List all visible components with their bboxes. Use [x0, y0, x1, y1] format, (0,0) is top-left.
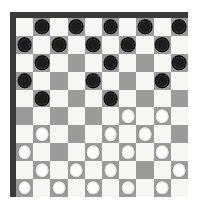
board-square-a7[interactable]: [16, 72, 33, 90]
board-square-c8[interactable]: [50, 54, 67, 72]
board-square-f8[interactable]: [102, 54, 119, 72]
light-checker-piece-icon[interactable]: [155, 145, 170, 160]
light-checker-piece-icon[interactable]: [120, 109, 135, 124]
board-square-i10[interactable]: [154, 18, 171, 36]
board-square-e2[interactable]: [85, 161, 102, 179]
light-checker-piece-icon[interactable]: [17, 180, 32, 195]
board-square-e4[interactable]: [85, 125, 102, 143]
board-square-e8[interactable]: [85, 54, 102, 72]
board-square-h2[interactable]: [136, 161, 153, 179]
board-square-g2[interactable]: [119, 161, 136, 179]
board-square-h10[interactable]: [136, 18, 153, 36]
board-square-a3[interactable]: [16, 143, 33, 161]
light-checker-piece-icon[interactable]: [52, 180, 67, 195]
board-square-d3[interactable]: [68, 143, 85, 161]
board-square-g1[interactable]: [119, 179, 136, 197]
board-square-i1[interactable]: [154, 179, 171, 197]
board-square-c6[interactable]: [50, 90, 67, 108]
board-square-b3[interactable]: [33, 143, 50, 161]
light-checker-piece-icon[interactable]: [86, 180, 101, 195]
board-square-g7[interactable]: [119, 72, 136, 90]
board-square-c2[interactable]: [50, 161, 67, 179]
board-square-a6[interactable]: [16, 90, 33, 108]
dark-checker-piece-icon[interactable]: [120, 37, 135, 52]
board-square-j9[interactable]: [171, 36, 188, 54]
board-square-h8[interactable]: [136, 54, 153, 72]
board-square-a4[interactable]: [16, 125, 33, 143]
dark-checker-piece-icon[interactable]: [155, 73, 170, 88]
dark-checker-piece-icon[interactable]: [172, 19, 187, 34]
board-square-b5[interactable]: [33, 107, 50, 125]
board-square-e3[interactable]: [85, 143, 102, 161]
dark-checker-piece-icon[interactable]: [34, 55, 49, 70]
board-square-d1[interactable]: [68, 179, 85, 197]
board-square-h9[interactable]: [136, 36, 153, 54]
board-square-a1[interactable]: [16, 179, 33, 197]
board-square-b4[interactable]: [33, 125, 50, 143]
board-square-f7[interactable]: [102, 72, 119, 90]
board-square-j4[interactable]: [171, 125, 188, 143]
board-square-c4[interactable]: [50, 125, 67, 143]
board-square-a2[interactable]: [16, 161, 33, 179]
board-square-b1[interactable]: [33, 179, 50, 197]
dark-checker-piece-icon[interactable]: [103, 19, 118, 34]
board-square-b8[interactable]: [33, 54, 50, 72]
light-checker-piece-icon[interactable]: [17, 145, 32, 160]
board-square-a10[interactable]: [16, 18, 33, 36]
light-checker-piece-icon[interactable]: [120, 145, 135, 160]
board-square-g9[interactable]: [119, 36, 136, 54]
board-square-h4[interactable]: [136, 125, 153, 143]
light-checker-piece-icon[interactable]: [155, 109, 170, 124]
board-square-h5[interactable]: [136, 107, 153, 125]
board-square-d10[interactable]: [68, 18, 85, 36]
board-square-e6[interactable]: [85, 90, 102, 108]
board-square-f2[interactable]: [102, 161, 119, 179]
board-square-e9[interactable]: [85, 36, 102, 54]
dark-checker-piece-icon[interactable]: [103, 55, 118, 70]
dark-checker-piece-icon[interactable]: [86, 73, 101, 88]
board-square-i2[interactable]: [154, 161, 171, 179]
board-square-d5[interactable]: [68, 107, 85, 125]
board-square-e10[interactable]: [85, 18, 102, 36]
board-square-c10[interactable]: [50, 18, 67, 36]
light-checker-piece-icon[interactable]: [34, 127, 49, 142]
board-square-b6[interactable]: [33, 90, 50, 108]
board-square-j5[interactable]: [171, 107, 188, 125]
light-checker-piece-icon[interactable]: [172, 162, 187, 177]
board-square-f4[interactable]: [102, 125, 119, 143]
board-square-f1[interactable]: [102, 179, 119, 197]
dark-checker-piece-icon[interactable]: [34, 91, 49, 106]
board-square-j1[interactable]: [171, 179, 188, 197]
board-square-f3[interactable]: [102, 143, 119, 161]
dark-checker-piece-icon[interactable]: [34, 19, 49, 34]
light-checker-piece-icon[interactable]: [86, 145, 101, 160]
board-square-i8[interactable]: [154, 54, 171, 72]
light-checker-piece-icon[interactable]: [103, 127, 118, 142]
dark-checker-piece-icon[interactable]: [103, 91, 118, 106]
board-square-j7[interactable]: [171, 72, 188, 90]
board-square-f5[interactable]: [102, 107, 119, 125]
board-square-c9[interactable]: [50, 36, 67, 54]
board-square-g5[interactable]: [119, 107, 136, 125]
board-square-b7[interactable]: [33, 72, 50, 90]
board-square-b2[interactable]: [33, 161, 50, 179]
board-square-b9[interactable]: [33, 36, 50, 54]
board-square-d2[interactable]: [68, 161, 85, 179]
board-square-e7[interactable]: [85, 72, 102, 90]
board-square-d4[interactable]: [68, 125, 85, 143]
board-square-i4[interactable]: [154, 125, 171, 143]
board-square-j6[interactable]: [171, 90, 188, 108]
board-square-h1[interactable]: [136, 179, 153, 197]
board-square-f10[interactable]: [102, 18, 119, 36]
board-square-b10[interactable]: [33, 18, 50, 36]
board-square-i6[interactable]: [154, 90, 171, 108]
board-square-g10[interactable]: [119, 18, 136, 36]
board-square-h6[interactable]: [136, 90, 153, 108]
board-square-c5[interactable]: [50, 107, 67, 125]
light-checker-piece-icon[interactable]: [103, 162, 118, 177]
board-square-d9[interactable]: [68, 36, 85, 54]
board-square-j2[interactable]: [171, 161, 188, 179]
board-square-g4[interactable]: [119, 125, 136, 143]
dark-checker-piece-icon[interactable]: [69, 19, 84, 34]
board-square-c1[interactable]: [50, 179, 67, 197]
